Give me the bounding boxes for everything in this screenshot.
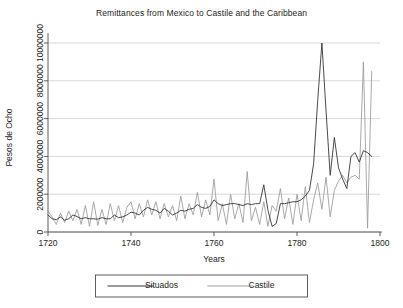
series-line-castile: [48, 62, 372, 228]
x-tick-label: 1760: [205, 238, 224, 248]
y-tick-label: 4000000: [35, 140, 45, 173]
y-axis: 0200000040000006000000800000010000000: [35, 24, 48, 235]
y-tick-label: 2000000: [35, 177, 45, 210]
legend-label-castile: Castile: [249, 280, 275, 290]
chart-legend: SituadosCastile: [96, 275, 308, 297]
legend-label-situados: Situados: [145, 280, 178, 290]
grid-lines: [48, 43, 380, 232]
chart-svg: 0200000040000006000000800000010000000 17…: [0, 0, 403, 308]
chart-container: Remittances from Mexico to Castile and t…: [0, 0, 403, 308]
y-tick-label: 10000000: [35, 24, 45, 62]
x-tick-label: 1740: [122, 238, 141, 248]
series-lines: [48, 43, 372, 228]
y-tick-label: 8000000: [35, 64, 45, 97]
x-tick-label: 1800: [371, 238, 390, 248]
y-axis-title: Pesos de Ocho: [4, 108, 14, 166]
x-tick-label: 1780: [288, 238, 307, 248]
x-axis: 17201740176017801800: [39, 232, 390, 248]
x-axis-title: Years: [203, 254, 224, 264]
y-tick-label: 6000000: [35, 102, 45, 135]
x-tick-label: 1720: [39, 238, 58, 248]
y-tick-label: 0: [35, 229, 45, 234]
